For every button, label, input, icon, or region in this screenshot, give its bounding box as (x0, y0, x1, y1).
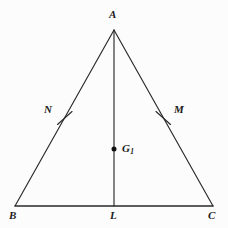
vertex-label-c: C (208, 210, 215, 221)
vertex-label-b: B (9, 210, 16, 221)
vertex-label-a: A (109, 9, 116, 20)
geometry-figure: A B C L N M G1 (0, 0, 228, 228)
point-label-g1: G1 (122, 143, 134, 154)
triangle-diagram-svg (0, 0, 228, 228)
point-label-m: M (174, 104, 184, 115)
centroid-letter: G (122, 142, 130, 154)
centroid-dot (112, 147, 117, 152)
tick-mark-M (156, 112, 171, 125)
point-label-l: L (110, 210, 117, 221)
tick-mark-N (58, 112, 73, 125)
centroid-subscript: 1 (130, 147, 134, 156)
point-label-n: N (44, 104, 52, 115)
